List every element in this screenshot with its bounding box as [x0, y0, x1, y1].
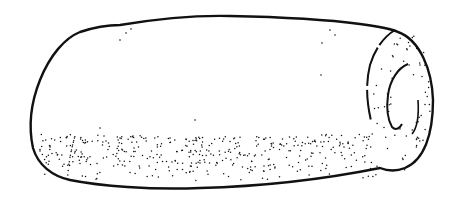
end-face-edge	[367, 30, 398, 168]
cylinder-drawing	[0, 0, 454, 202]
illustration-canvas: Line drawing of a cylindrical object wit…	[0, 0, 454, 202]
spiral-inner-curve	[387, 64, 408, 129]
stipple-dots	[39, 28, 430, 181]
body-outline	[31, 16, 433, 189]
spiral-outer-curve	[412, 100, 418, 134]
